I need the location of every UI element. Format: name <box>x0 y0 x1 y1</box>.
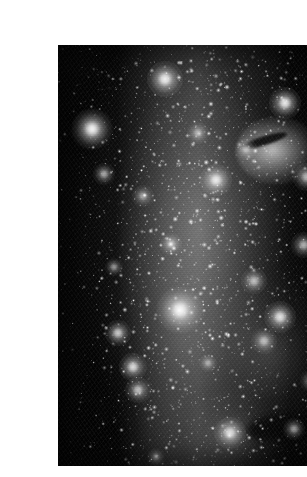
star-point <box>251 328 276 353</box>
dark-region-upper-left <box>58 83 112 150</box>
star-point <box>241 268 266 293</box>
star-point <box>214 417 246 449</box>
star-point <box>264 301 296 333</box>
star-point <box>300 370 307 392</box>
star-point <box>105 258 123 276</box>
dark-region-lower-left <box>58 357 139 466</box>
star-point <box>147 61 183 97</box>
page-canvas <box>0 0 307 477</box>
star-point <box>105 320 130 345</box>
star-point <box>200 164 232 196</box>
dark-lane-lower-right <box>246 411 307 444</box>
star-point <box>160 233 182 255</box>
star-point <box>157 287 204 334</box>
hii-knot-upper-right <box>236 117 307 184</box>
star-point <box>132 185 154 207</box>
star-point <box>199 354 217 372</box>
dark-region-right-edge <box>301 171 307 289</box>
star-point <box>187 122 209 144</box>
astronomical-image <box>58 45 307 466</box>
star-point <box>93 163 115 185</box>
star-point <box>269 87 301 119</box>
star-point <box>147 448 165 466</box>
